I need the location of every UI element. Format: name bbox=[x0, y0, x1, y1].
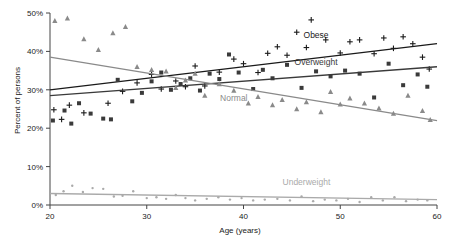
data-point bbox=[314, 69, 318, 73]
data-point bbox=[69, 122, 73, 126]
data-point bbox=[52, 18, 57, 23]
data-point bbox=[289, 199, 291, 201]
data-point bbox=[82, 191, 84, 193]
data-point bbox=[312, 200, 314, 202]
data-point bbox=[275, 44, 281, 50]
data-point bbox=[285, 63, 289, 67]
data-point bbox=[362, 100, 367, 105]
data-point bbox=[308, 17, 314, 23]
y-tick-label: 0% bbox=[31, 201, 43, 210]
chart-figure: 0%10%20%30%40%50%2030405060ObeseOverweig… bbox=[0, 0, 455, 245]
data-point bbox=[105, 100, 111, 106]
series-label-obese: Obese bbox=[304, 30, 329, 40]
data-point bbox=[123, 24, 128, 29]
data-point bbox=[420, 108, 425, 113]
data-point bbox=[51, 107, 57, 113]
data-point bbox=[410, 41, 416, 47]
y-axis-title: Percent of persons bbox=[13, 62, 22, 140]
data-point bbox=[347, 39, 353, 45]
data-point bbox=[229, 198, 231, 200]
data-point bbox=[63, 109, 67, 113]
data-point bbox=[280, 97, 285, 102]
data-point bbox=[261, 68, 265, 72]
data-point bbox=[304, 45, 310, 51]
data-point bbox=[184, 197, 186, 199]
data-point bbox=[255, 70, 261, 76]
data-point bbox=[116, 78, 120, 82]
data-point bbox=[140, 91, 144, 95]
data-point bbox=[165, 198, 167, 200]
data-point bbox=[241, 61, 247, 67]
trend-line bbox=[50, 67, 437, 96]
data-point bbox=[217, 77, 221, 81]
y-tick-label: 10% bbox=[27, 163, 43, 172]
data-point bbox=[110, 30, 115, 35]
data-point bbox=[335, 199, 337, 201]
data-point bbox=[102, 188, 104, 190]
data-point bbox=[173, 78, 179, 84]
data-point bbox=[62, 190, 64, 192]
data-point bbox=[77, 101, 81, 105]
data-point bbox=[169, 88, 173, 92]
y-tick: 50% bbox=[27, 9, 50, 18]
data-point bbox=[358, 201, 360, 203]
x-tick: 30 bbox=[142, 205, 151, 221]
data-point bbox=[393, 196, 395, 198]
y-tick-label: 40% bbox=[27, 47, 43, 56]
data-point bbox=[164, 69, 169, 74]
data-point bbox=[270, 102, 275, 107]
data-point bbox=[382, 199, 384, 201]
x-tick: 20 bbox=[46, 205, 55, 221]
x-tick-label: 20 bbox=[46, 212, 55, 221]
data-point bbox=[284, 52, 290, 58]
x-axis-title: Age (years) bbox=[180, 226, 300, 235]
data-point bbox=[400, 34, 406, 40]
series-underweight: Underweight bbox=[50, 177, 437, 203]
data-point bbox=[113, 195, 115, 197]
x-tick: 60 bbox=[433, 205, 442, 221]
data-point bbox=[357, 37, 363, 43]
y-tick-label: 20% bbox=[27, 124, 43, 133]
data-point bbox=[146, 197, 148, 199]
data-point bbox=[81, 110, 87, 116]
data-point bbox=[109, 117, 113, 121]
data-point bbox=[381, 35, 387, 41]
data-point bbox=[96, 47, 101, 52]
y-tick-label: 50% bbox=[27, 9, 43, 18]
data-point bbox=[347, 95, 352, 100]
y-tick-label: 30% bbox=[27, 86, 43, 95]
data-point bbox=[372, 95, 376, 99]
x-tick-label: 40 bbox=[239, 212, 248, 221]
y-tick: 0% bbox=[31, 201, 50, 210]
data-point bbox=[387, 62, 391, 66]
data-point bbox=[425, 85, 429, 89]
data-point bbox=[265, 51, 271, 57]
data-point bbox=[208, 72, 212, 76]
y-tick: 10% bbox=[27, 163, 50, 172]
data-point bbox=[231, 88, 236, 93]
data-point bbox=[155, 196, 157, 198]
data-point bbox=[294, 106, 299, 111]
series-label-underweight: Underweight bbox=[283, 177, 331, 187]
series-label-normal: Normal bbox=[220, 93, 248, 103]
y-tick: 30% bbox=[27, 86, 50, 95]
data-point bbox=[416, 72, 420, 76]
data-point bbox=[255, 94, 260, 99]
data-point bbox=[420, 54, 426, 60]
data-point bbox=[376, 105, 381, 110]
data-point bbox=[91, 187, 93, 189]
x-tick: 50 bbox=[336, 205, 345, 221]
x-tick: 40 bbox=[239, 205, 248, 221]
trend-line bbox=[50, 193, 437, 199]
data-point bbox=[134, 80, 140, 86]
data-point bbox=[150, 79, 154, 83]
data-point bbox=[324, 198, 326, 200]
data-point bbox=[81, 36, 86, 41]
data-point bbox=[149, 67, 154, 72]
data-point bbox=[343, 69, 347, 73]
data-point bbox=[328, 89, 333, 94]
data-point bbox=[227, 52, 231, 56]
series-label-overweight: Overweight bbox=[295, 57, 339, 67]
scatter-plot-canvas: 0%10%20%30%40%50%2030405060ObeseOverweig… bbox=[0, 0, 455, 245]
data-point bbox=[264, 198, 266, 200]
